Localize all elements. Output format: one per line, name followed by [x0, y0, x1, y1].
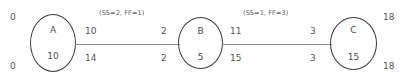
edge-bc-tail-top-value: 11 [230, 26, 242, 36]
node-b-duration: 5 [178, 52, 223, 62]
node-a-label: A [30, 25, 76, 35]
node-b-label: B [178, 26, 223, 36]
corner-label-bottom-left: 0 [10, 61, 16, 71]
edge-bc-head-bottom-value: 3 [310, 53, 316, 63]
node-c-duration: 15 [330, 52, 377, 62]
edge-bc-tail-bottom-value: 15 [230, 53, 242, 63]
edge-ab-tail-top-value: 10 [85, 26, 97, 36]
edge-bc-connector[interactable] [222, 44, 332, 45]
network-diagram-canvas: 0 0 A 10 (SS=2, FF=1) 10 14 2 2 B 5 (SS=… [0, 0, 410, 79]
edge-ab-head-bottom-value: 2 [161, 53, 167, 63]
edge-ab-annotation: (SS=2, FF=1) [99, 9, 144, 17]
edge-ab-tail-bottom-value: 14 [85, 53, 97, 63]
corner-label-top-right: 18 [383, 12, 394, 22]
edge-bc-annotation: (SS=1, FF=3) [243, 9, 288, 17]
edge-ab-connector[interactable] [75, 44, 180, 45]
node-c-label: C [330, 25, 377, 35]
edge-ab-head-top-value: 2 [161, 26, 167, 36]
corner-label-top-left: 0 [10, 12, 16, 22]
corner-label-bottom-right: 18 [383, 61, 394, 71]
edge-bc-head-top-value: 3 [310, 26, 316, 36]
node-a[interactable] [30, 14, 76, 72]
node-a-duration: 10 [30, 51, 76, 61]
